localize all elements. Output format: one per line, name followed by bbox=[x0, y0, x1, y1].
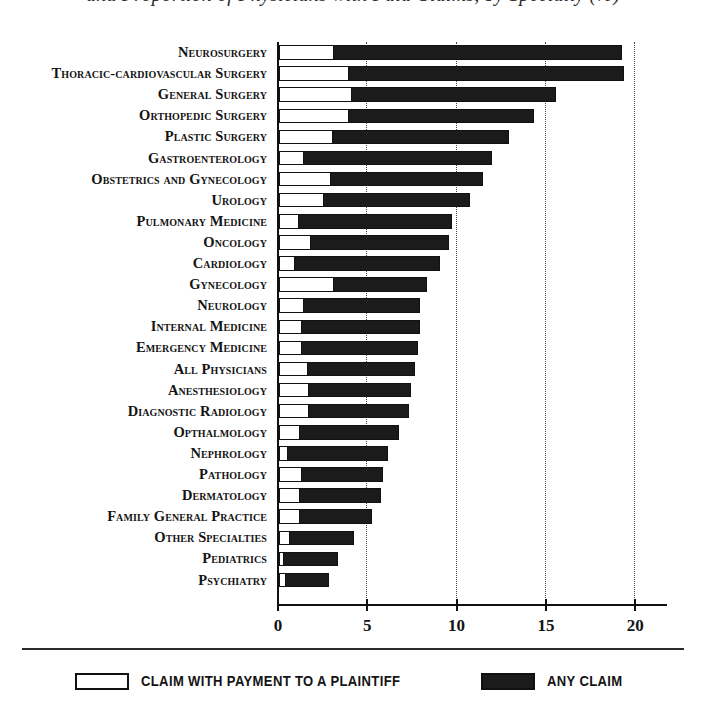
bar-any-claim bbox=[279, 552, 338, 567]
category-label: Pediatrics bbox=[202, 548, 267, 569]
bar-paid-claim bbox=[279, 531, 290, 546]
category-label: Opthalmology bbox=[173, 422, 267, 443]
x-axis-line: 05101520 bbox=[277, 604, 667, 606]
bar-row: Pediatrics bbox=[0, 548, 706, 569]
bar-row: Obstetrics and Gynecology bbox=[0, 169, 706, 190]
bar-paid-claim bbox=[279, 404, 309, 419]
category-label: Anesthesiology bbox=[168, 380, 267, 401]
bar-any-claim bbox=[279, 446, 388, 461]
bar-row: Urology bbox=[0, 190, 706, 211]
bar-any-claim bbox=[279, 256, 440, 271]
bar-paid-claim bbox=[279, 320, 302, 335]
category-label: Nephrology bbox=[191, 443, 267, 464]
category-label: Gynecology bbox=[189, 274, 267, 295]
bar-paid-claim bbox=[279, 573, 286, 588]
category-label: All Physicians bbox=[174, 359, 267, 380]
chart-page: and Proportion of Physicians with Paid C… bbox=[0, 0, 706, 704]
bar-any-claim bbox=[279, 573, 329, 588]
bar-paid-claim bbox=[279, 87, 352, 102]
category-label: Emergency Medicine bbox=[136, 337, 267, 358]
bar-row: All Physicians bbox=[0, 359, 706, 380]
legend-label: ANY CLAIM bbox=[547, 673, 623, 689]
bar-paid-claim bbox=[279, 235, 311, 250]
legend-item: ANY CLAIM bbox=[481, 673, 631, 690]
x-tick-label: 20 bbox=[627, 616, 644, 636]
bar-paid-claim bbox=[279, 298, 304, 313]
bar-row: General Surgery bbox=[0, 84, 706, 105]
bar-paid-claim bbox=[279, 362, 308, 377]
category-label: Pathology bbox=[199, 464, 267, 485]
category-label: Obstetrics and Gynecology bbox=[91, 169, 267, 190]
bar-paid-claim bbox=[279, 214, 299, 229]
category-label: General Surgery bbox=[158, 84, 267, 105]
bar-row: Diagnostic Radiology bbox=[0, 401, 706, 422]
bar-paid-claim bbox=[279, 256, 295, 271]
category-label: Plastic Surgery bbox=[165, 126, 267, 147]
category-label: Psychiatry bbox=[198, 570, 267, 591]
chart-legend: CLAIM WITH PAYMENT TO A PLAINTIFFANY CLA… bbox=[0, 664, 706, 698]
category-label: Cardiology bbox=[193, 253, 267, 274]
bar-paid-claim bbox=[279, 341, 302, 356]
category-label: Thoracic-cardiovascular Surgery bbox=[52, 63, 267, 84]
bar-row: Anesthesiology bbox=[0, 380, 706, 401]
bar-row: Dermatology bbox=[0, 485, 706, 506]
bar-row: Gastroenterology bbox=[0, 148, 706, 169]
page-title-strip: and Proportion of Physicians with Paid C… bbox=[0, 0, 706, 16]
bar-row: Internal Medicine bbox=[0, 316, 706, 337]
category-label: Urology bbox=[211, 190, 267, 211]
bar-paid-claim bbox=[279, 66, 349, 81]
bar-row: Emergency Medicine bbox=[0, 337, 706, 358]
bar-row: Psychiatry bbox=[0, 570, 706, 591]
x-tick bbox=[277, 599, 279, 611]
bar-row: Nephrology bbox=[0, 443, 706, 464]
category-label: Dermatology bbox=[182, 485, 267, 506]
bar-paid-claim bbox=[279, 172, 331, 187]
bar-row: Gynecology bbox=[0, 274, 706, 295]
bar-row: Other Specialties bbox=[0, 527, 706, 548]
x-tick-label: 0 bbox=[274, 616, 283, 636]
category-label: Diagnostic Radiology bbox=[128, 401, 267, 422]
category-label: Pulmonary Medicine bbox=[137, 211, 267, 232]
bar-paid-claim bbox=[279, 193, 324, 208]
bar-paid-claim bbox=[279, 467, 302, 482]
x-tick bbox=[456, 599, 458, 611]
category-label: Oncology bbox=[203, 232, 267, 253]
bar-row: Family General Practice bbox=[0, 506, 706, 527]
page-title: and Proportion of Physicians with Paid C… bbox=[86, 0, 620, 6]
bar-any-claim bbox=[279, 214, 452, 229]
x-tick-label: 15 bbox=[537, 616, 554, 636]
bar-paid-claim bbox=[279, 45, 334, 60]
bar-rows: NeurosurgeryThoracic-cardiovascular Surg… bbox=[0, 22, 706, 584]
bar-paid-claim bbox=[279, 425, 300, 440]
category-label: Neurology bbox=[197, 295, 267, 316]
bar-row: Neurosurgery bbox=[0, 42, 706, 63]
footer-divider bbox=[22, 648, 684, 650]
bar-paid-claim bbox=[279, 130, 333, 145]
category-label: Orthopedic Surgery bbox=[139, 105, 267, 126]
x-tick bbox=[545, 599, 547, 611]
bar-paid-claim bbox=[279, 383, 309, 398]
bar-paid-claim bbox=[279, 509, 300, 524]
bar-row: Orthopedic Surgery bbox=[0, 105, 706, 126]
bar-row: Pulmonary Medicine bbox=[0, 211, 706, 232]
bar-row: Cardiology bbox=[0, 253, 706, 274]
legend-swatch-filled bbox=[481, 673, 535, 690]
bar-paid-claim bbox=[279, 446, 288, 461]
category-label: Family General Practice bbox=[107, 506, 267, 527]
legend-item: CLAIM WITH PAYMENT TO A PLAINTIFF bbox=[75, 673, 429, 690]
category-label: Internal Medicine bbox=[151, 316, 267, 337]
bar-any-claim bbox=[279, 531, 354, 546]
bar-row: Oncology bbox=[0, 232, 706, 253]
bar-paid-claim bbox=[279, 109, 349, 124]
x-tick bbox=[366, 599, 368, 611]
bar-row: Thoracic-cardiovascular Surgery bbox=[0, 63, 706, 84]
category-label: Neurosurgery bbox=[178, 42, 267, 63]
bar-paid-claim bbox=[279, 552, 284, 567]
bar-row: Plastic Surgery bbox=[0, 126, 706, 147]
bar-row: Opthalmology bbox=[0, 422, 706, 443]
category-label: Other Specialties bbox=[154, 527, 267, 548]
bar-paid-claim bbox=[279, 488, 300, 503]
category-label: Gastroenterology bbox=[148, 148, 267, 169]
x-tick bbox=[634, 599, 636, 611]
legend-swatch-open bbox=[75, 673, 129, 690]
